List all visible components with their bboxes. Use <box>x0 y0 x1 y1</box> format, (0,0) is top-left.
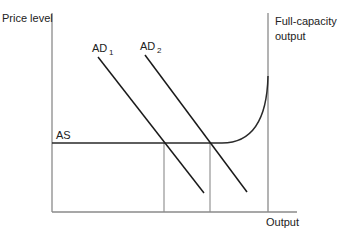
ad2-label: AD 2 <box>140 40 162 55</box>
ad2-label-subscript: 2 <box>157 46 162 55</box>
y-axis-label: Price level <box>2 12 53 24</box>
full-capacity-label-line1: Full-capacity <box>275 15 337 27</box>
x-axis-label: Output <box>266 216 299 228</box>
ad1-label: AD 1 <box>92 42 114 57</box>
ad2-curve <box>145 55 247 192</box>
ad1-curve <box>98 57 204 193</box>
ad-as-diagram: Price level Output Full-capacity output … <box>0 0 341 231</box>
as-label: AS <box>56 129 71 141</box>
full-capacity-label-line2: output <box>275 30 306 42</box>
ad2-label-text: AD <box>140 40 155 52</box>
as-curve <box>52 76 268 143</box>
ad1-label-text: AD <box>92 42 107 54</box>
ad1-label-subscript: 1 <box>109 48 114 57</box>
